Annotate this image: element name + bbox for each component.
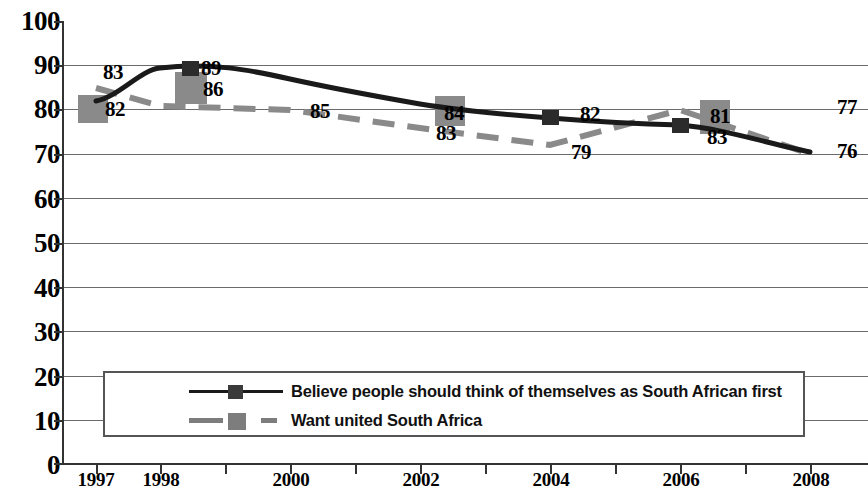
solid-marker-1998	[182, 61, 199, 76]
value-label-1998-dashed: 86	[203, 79, 223, 100]
x-tick-label-2002: 2002	[386, 470, 456, 489]
value-label-2002-dashed: 83	[436, 123, 456, 144]
x-tick-label-1997: 1997	[61, 470, 131, 489]
legend-label-want-united: Want united South Africa	[291, 411, 482, 429]
value-label-2004-dashed: 79	[571, 142, 591, 163]
x-tick-label-2008: 2008	[776, 470, 846, 489]
legend: Believe people should think of themselve…	[103, 371, 805, 437]
value-label-1997-solid: 83	[103, 62, 123, 83]
value-label-2006-dashed: 83	[707, 127, 727, 148]
legend-sample-solid-line-icon	[189, 381, 283, 401]
legend-label-believe: Believe people should think of themselve…	[291, 382, 782, 400]
x-tick-label-2004: 2004	[516, 470, 586, 489]
value-label-2008-solid: 77	[837, 97, 857, 118]
value-label-2000-dashed: 85	[310, 101, 330, 122]
value-label-2008-dashed: 76	[837, 141, 857, 162]
value-label-2006-solid: 81	[710, 106, 730, 127]
x-tick-label-1998: 1998	[126, 470, 196, 489]
legend-entry-believe[interactable]: Believe people should think of themselve…	[189, 378, 782, 404]
value-label-2004-solid: 82	[580, 104, 600, 125]
x-tick-label-2000: 2000	[256, 470, 326, 489]
solid-marker-2004	[542, 110, 559, 125]
x-tick-label-2006: 2006	[646, 470, 716, 489]
value-label-1997-dashed: 82	[105, 99, 125, 120]
value-label-1998-solid: 89	[201, 58, 221, 79]
legend-sample-dashed-line-icon	[189, 410, 283, 430]
line-chart: 100 90 80 70 60 50 40 30 20 10 0	[0, 0, 868, 496]
legend-entry-want-united[interactable]: Want united South Africa	[189, 407, 482, 433]
solid-marker-2006	[672, 118, 689, 133]
